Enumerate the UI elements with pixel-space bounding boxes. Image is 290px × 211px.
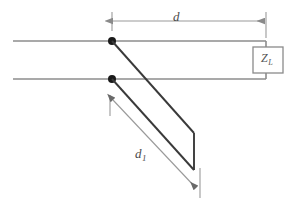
d1-dimension-arrow-line <box>113 100 196 188</box>
d-dimension-group <box>112 12 266 38</box>
figure-canvas <box>0 0 290 211</box>
stub-lower-conductor <box>112 79 194 170</box>
main-transmission-line <box>13 41 266 79</box>
transmission-line-stub-figure: d d1 ZL <box>0 0 290 211</box>
stub-upper-conductor <box>112 41 194 133</box>
d1-dimension-group <box>110 95 200 198</box>
load-impedance-box <box>253 47 283 73</box>
shorted-stub <box>112 41 194 170</box>
